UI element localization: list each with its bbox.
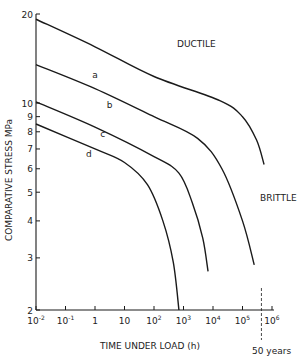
stress-rupture-chart: 23456789102010-210-1110102103104105106 a… xyxy=(0,0,303,361)
y-axis-label: COMPARATIVE STRESS MPa xyxy=(4,119,14,241)
annotations: DUCTILE BRITTLE 50 years TIME UNDER LOAD… xyxy=(4,39,297,356)
y-tick-label: 3 xyxy=(27,253,33,263)
x-tick-label: 10-2 xyxy=(27,314,45,326)
y-tick-label: 4 xyxy=(27,216,33,226)
x-axis-label: TIME UNDER LOAD (h) xyxy=(99,341,200,351)
x-tick-label: 10 xyxy=(119,316,131,326)
curves: abcd xyxy=(36,19,264,310)
curve-label-c: c xyxy=(100,129,105,139)
y-tick-label: 10 xyxy=(22,99,34,109)
x-tick-label: 105 xyxy=(235,314,250,326)
curve-c xyxy=(36,102,208,272)
x-tick-label: 104 xyxy=(205,314,220,326)
y-tick-label: 20 xyxy=(22,10,34,20)
axes: 23456789102010-210-1110102103104105106 xyxy=(22,10,280,341)
y-tick-label: 8 xyxy=(27,127,33,137)
brittle-label: BRITTLE xyxy=(260,193,297,203)
y-tick-label: 2 xyxy=(27,306,33,316)
x-tick-label: 10-1 xyxy=(57,314,75,326)
x-tick-label: 1 xyxy=(92,316,98,326)
x-tick-label: 102 xyxy=(146,314,161,326)
x-tick-label: 103 xyxy=(176,314,191,326)
fifty-years-label: 50 years xyxy=(252,346,291,356)
y-tick-label: 5 xyxy=(27,188,33,198)
curve-label-d: d xyxy=(86,149,92,159)
y-tick-label: 9 xyxy=(27,112,33,122)
y-tick-label: 6 xyxy=(27,164,33,174)
y-tick-label: 7 xyxy=(27,144,33,154)
curve-a xyxy=(36,19,264,164)
ductile-label: DUCTILE xyxy=(177,39,216,49)
curve-b xyxy=(36,65,254,265)
curve-d xyxy=(36,124,179,310)
curve-label-a: a xyxy=(92,70,98,80)
x-tick-label: 106 xyxy=(264,314,279,326)
curve-label-b: b xyxy=(107,100,113,110)
